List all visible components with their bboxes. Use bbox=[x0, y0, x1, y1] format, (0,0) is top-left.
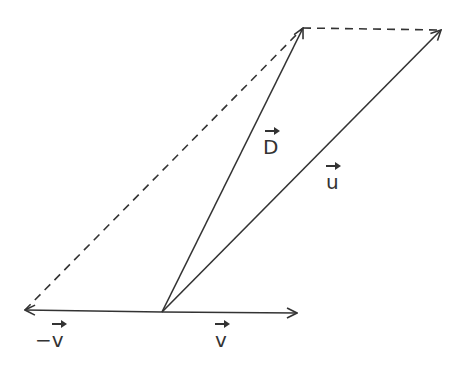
vector-u-label: u bbox=[326, 172, 339, 192]
label-v: v bbox=[215, 330, 227, 350]
label-neg-v: −v bbox=[35, 330, 64, 350]
vector-d-label: D bbox=[263, 137, 278, 157]
vector-v-arrow bbox=[162, 312, 297, 313]
vector-diagram bbox=[0, 0, 470, 373]
vector-d-arrow bbox=[162, 28, 303, 312]
minus-sign: − bbox=[35, 328, 52, 352]
dashed-line-neg-v-to-d bbox=[25, 28, 303, 310]
vector-v-label: v bbox=[215, 330, 227, 350]
dashed-line-d-to-u bbox=[303, 28, 441, 30]
label-u: u bbox=[326, 172, 339, 192]
vector-neg-v-arrow bbox=[25, 310, 162, 312]
vector-u-arrow bbox=[162, 30, 441, 312]
vector-neg-v-label: v bbox=[52, 330, 64, 350]
label-d: D bbox=[263, 137, 278, 157]
